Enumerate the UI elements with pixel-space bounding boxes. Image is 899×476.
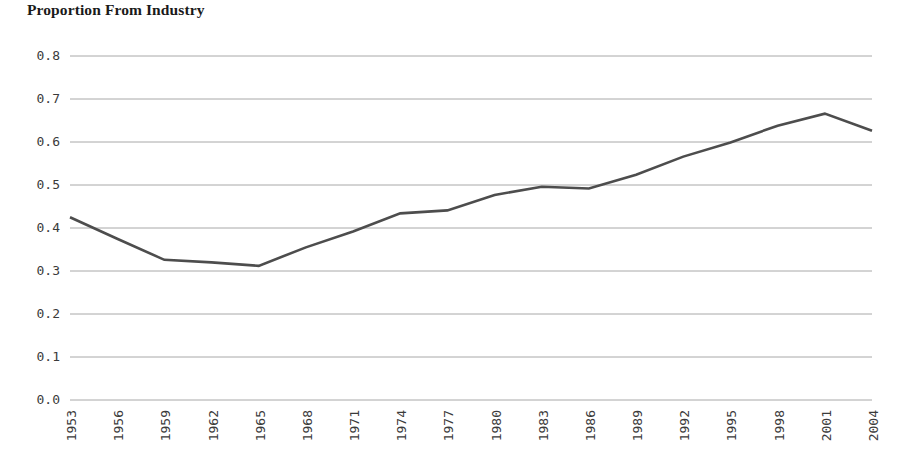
x-tick-label-2001: 2001 bbox=[819, 410, 834, 441]
x-tick-label-1980: 1980 bbox=[489, 410, 504, 441]
x-tick-label-1962: 1962 bbox=[206, 410, 221, 441]
x-tick-label-1968: 1968 bbox=[300, 410, 315, 441]
x-tick-label-1986: 1986 bbox=[583, 410, 598, 441]
chart-container: Proportion From Industry 0.00.10.20.30.4… bbox=[0, 0, 899, 476]
x-axis-tick-labels: 1953195619591962196519681971197419771980… bbox=[0, 0, 899, 476]
x-tick-label-1953: 1953 bbox=[64, 410, 79, 441]
x-tick-label-1992: 1992 bbox=[677, 410, 692, 441]
x-tick-label-1995: 1995 bbox=[724, 410, 739, 441]
x-tick-label-1956: 1956 bbox=[111, 410, 126, 441]
x-tick-label-1971: 1971 bbox=[347, 410, 362, 441]
x-tick-label-1959: 1959 bbox=[158, 410, 173, 441]
x-tick-label-1977: 1977 bbox=[441, 410, 456, 441]
x-tick-label-2004: 2004 bbox=[866, 410, 881, 441]
x-tick-label-1998: 1998 bbox=[772, 410, 787, 441]
x-tick-label-1974: 1974 bbox=[394, 410, 409, 441]
x-tick-label-1965: 1965 bbox=[253, 410, 268, 441]
x-tick-label-1983: 1983 bbox=[536, 410, 551, 441]
x-tick-label-1989: 1989 bbox=[630, 410, 645, 441]
